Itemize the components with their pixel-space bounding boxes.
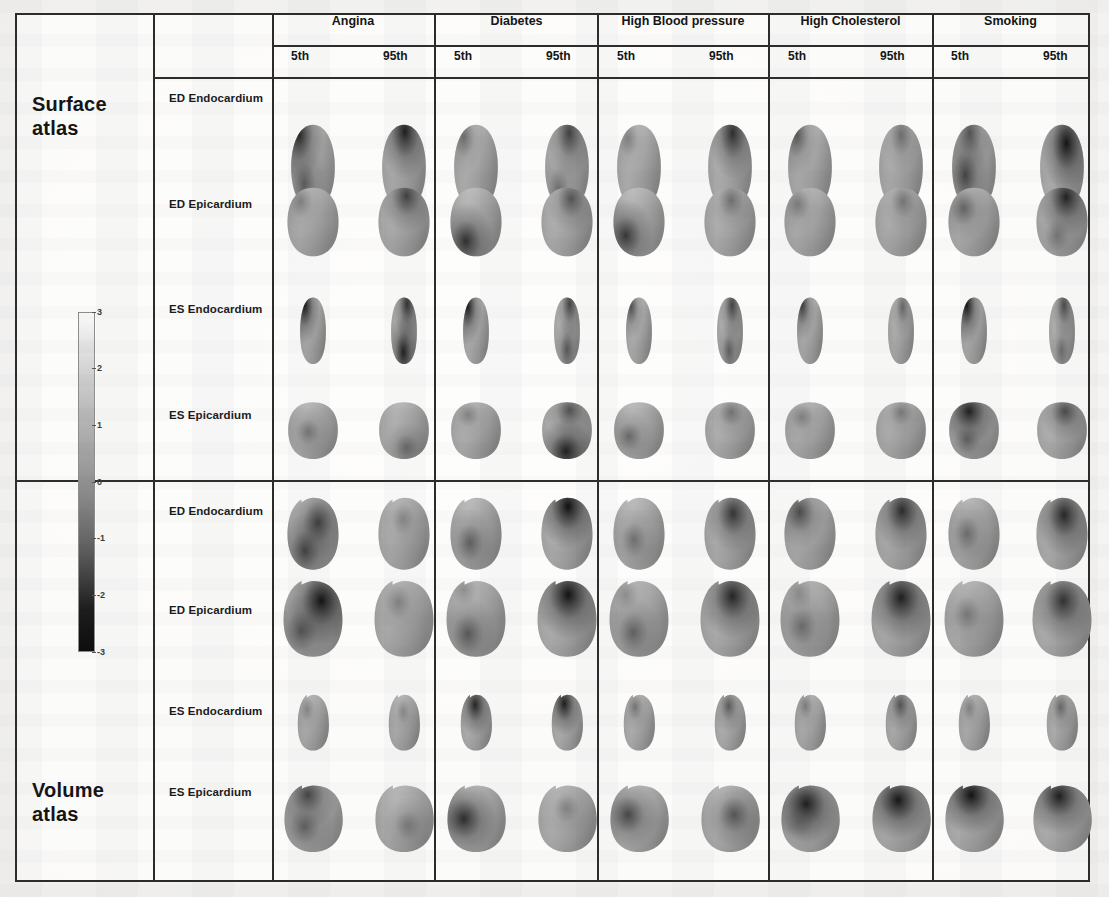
heart-volume-row3-col3	[536, 781, 598, 855]
colorbar-tick-0: 0	[97, 477, 102, 487]
row-label-surface-es-endocardium: ES Endocardium	[169, 303, 262, 315]
pct-header-angina-95th: 95th	[383, 49, 408, 63]
group-header-high-blood-pressure: High Blood pressure	[598, 14, 768, 28]
row-label-volume-ed-endocardium: ED Endocardium	[169, 505, 263, 517]
heart-surface-row2-col9	[1045, 293, 1079, 367]
pct-header-diabetes-5th: 5th	[454, 49, 472, 63]
heart-surface-row3-col9	[1035, 397, 1089, 463]
atlas-label-volume: Volume atlas	[32, 779, 104, 826]
cardiac-atlas-figure: Angina Diabetes High Blood pressure High…	[0, 0, 1109, 897]
heart-volume-row0-col1	[375, 493, 433, 573]
heart-surface-row1-col9	[1033, 183, 1091, 261]
heart-volume-row1-col6	[778, 576, 842, 660]
row-label-volume-es-epicardium: ES Epicardium	[169, 786, 251, 798]
atlas-divider-rule	[17, 480, 1088, 482]
heart-volume-row2-col1	[385, 691, 423, 753]
heart-volume-row2-col7	[882, 691, 920, 753]
row-label-volume-es-endocardium: ES Endocardium	[169, 705, 262, 717]
colorbar-tick-minus2: -2	[97, 590, 105, 600]
pct-header-smoking-95th: 95th	[1043, 49, 1068, 63]
header-rule-upper	[272, 45, 1088, 47]
heart-volume-row0-col0	[284, 493, 342, 573]
heart-volume-row3-col6	[779, 781, 841, 855]
heart-surface-row1-col7	[872, 183, 930, 261]
heart-volume-row1-col9	[1030, 576, 1094, 660]
heart-volume-row1-col5	[698, 576, 762, 660]
heart-volume-row0-col2	[447, 493, 505, 573]
header-rule-lower	[153, 77, 1088, 79]
heart-volume-row1-col4	[607, 576, 671, 660]
heart-volume-row3-col2	[445, 781, 507, 855]
heart-volume-row1-col3	[535, 576, 599, 660]
heart-surface-row3-col0	[286, 397, 340, 463]
pct-header-smoking-5th: 5th	[951, 49, 969, 63]
heart-surface-row2-col6	[793, 293, 827, 367]
heart-volume-row1-col2	[444, 576, 508, 660]
heart-volume-row2-col6	[791, 691, 829, 753]
row-label-surface-ed-endocardium: ED Endocardium	[169, 92, 263, 104]
heart-surface-row1-col0	[284, 183, 342, 261]
heart-surface-row1-col6	[781, 183, 839, 261]
column-rule-chol	[932, 15, 934, 880]
group-header-high-cholesterol: High Cholesterol	[769, 14, 932, 28]
heart-volume-row3-col1	[373, 781, 435, 855]
heart-volume-row0-col4	[610, 493, 668, 573]
heart-surface-row2-col1	[387, 293, 421, 367]
heart-surface-row1-col5	[701, 183, 759, 261]
heart-surface-row3-col6	[783, 397, 837, 463]
colorbar-tick-minus1: -1	[97, 533, 105, 543]
pct-header-chol-95th: 95th	[880, 49, 905, 63]
heart-surface-row1-col8	[945, 183, 1003, 261]
heart-surface-row3-col8	[947, 397, 1001, 463]
heart-volume-row1-col0	[281, 576, 345, 660]
heart-volume-row0-col8	[945, 493, 1003, 573]
heart-surface-row3-col2	[449, 397, 503, 463]
heart-volume-row2-col3	[548, 691, 586, 753]
heart-surface-row2-col2	[459, 293, 493, 367]
heart-volume-row0-col6	[781, 493, 839, 573]
pct-header-chol-5th: 5th	[788, 49, 806, 63]
pct-header-diabetes-95th: 95th	[546, 49, 571, 63]
heart-surface-row1-col3	[538, 183, 596, 261]
pct-header-angina-5th: 5th	[291, 49, 309, 63]
column-rule-diabetes	[597, 15, 599, 880]
heart-volume-row2-col5	[711, 691, 749, 753]
heart-surface-row3-col7	[874, 397, 928, 463]
heart-volume-row1-col1	[372, 576, 436, 660]
group-header-diabetes: Diabetes	[435, 14, 598, 28]
atlas-label-surface: Surface atlas	[32, 93, 107, 140]
heart-surface-row3-col3	[540, 397, 594, 463]
colorbar-tick-1: 1	[97, 420, 102, 430]
column-rule-atlas	[153, 15, 155, 880]
heart-volume-row0-col7	[872, 493, 930, 573]
heart-surface-row2-col5	[713, 293, 747, 367]
heart-volume-row1-col8	[942, 576, 1006, 660]
heart-volume-row3-col9	[1031, 781, 1093, 855]
column-rule-angina	[434, 15, 436, 880]
heart-surface-row1-col1	[375, 183, 433, 261]
heart-volume-row3-col4	[608, 781, 670, 855]
heart-volume-row3-col5	[699, 781, 761, 855]
heart-volume-row3-col8	[943, 781, 1005, 855]
heart-surface-row2-col8	[957, 293, 991, 367]
column-rule-hbp	[768, 15, 770, 880]
colorbar-tick-minus3: -3	[97, 647, 105, 657]
row-label-surface-es-epicardium: ES Epicardium	[169, 409, 251, 421]
heart-volume-row2-col0	[294, 691, 332, 753]
heart-volume-row2-col4	[620, 691, 658, 753]
group-header-angina: Angina	[272, 14, 434, 28]
colorbar-tick-2: 2	[97, 363, 102, 373]
heart-volume-row1-col7	[869, 576, 933, 660]
heart-surface-row2-col3	[550, 293, 584, 367]
heart-volume-row2-col8	[955, 691, 993, 753]
heart-volume-row0-col9	[1033, 493, 1091, 573]
pct-header-hbp-95th: 95th	[709, 49, 734, 63]
heart-volume-row2-col2	[457, 691, 495, 753]
heart-surface-row2-col4	[622, 293, 656, 367]
heart-volume-row3-col0	[282, 781, 344, 855]
heart-surface-row3-col5	[703, 397, 757, 463]
heart-surface-row3-col1	[377, 397, 431, 463]
heart-surface-row1-col4	[610, 183, 668, 261]
heart-surface-row1-col2	[447, 183, 505, 261]
colorbar: 3 2 1 0 -1 -2 -3	[78, 312, 95, 652]
